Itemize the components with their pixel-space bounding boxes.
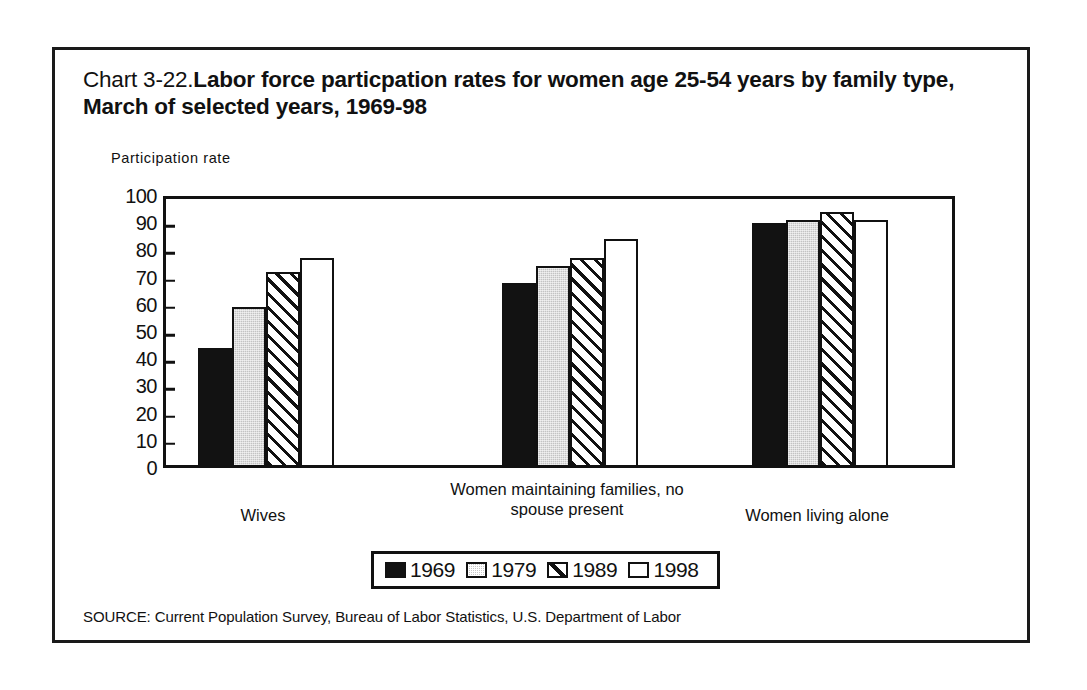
- x-axis-label: Women living alone: [692, 505, 942, 525]
- figure-frame: Chart 3-22.Labor force particpation rate…: [52, 47, 1030, 643]
- legend-item[interactable]: 1969: [385, 558, 462, 582]
- legend-label: 1969: [410, 558, 455, 582]
- source-note: SOURCE: Current Population Survey, Burea…: [83, 608, 681, 625]
- y-tick-label: 90: [113, 212, 157, 235]
- y-tick-label: 60: [113, 293, 157, 316]
- legend-item[interactable]: 1989: [547, 558, 624, 582]
- legend-label: 1989: [572, 558, 617, 582]
- y-tick-label: 20: [113, 402, 157, 425]
- legend-item[interactable]: 1979: [466, 558, 543, 582]
- legend: 1969197919891998: [371, 551, 720, 589]
- bar-group: [198, 199, 334, 465]
- bar[interactable]: [604, 239, 638, 465]
- legend-swatch-icon: [385, 562, 406, 578]
- y-tick-label: 0: [113, 457, 157, 480]
- legend-item[interactable]: 1998: [628, 558, 705, 582]
- bar[interactable]: [232, 307, 266, 465]
- chart-title-text: Labor force particpation rates for women…: [83, 67, 954, 119]
- page-title: Chart 3-22.Labor force particpation rate…: [83, 66, 1003, 120]
- y-tick-label: 100: [113, 185, 157, 208]
- y-tick-label: 80: [113, 239, 157, 262]
- y-tick-mark: [166, 443, 175, 446]
- bar[interactable]: [300, 258, 334, 465]
- y-tick-mark: [166, 225, 175, 228]
- bar[interactable]: [820, 212, 854, 465]
- bar[interactable]: [502, 283, 536, 465]
- y-tick-label: 50: [113, 321, 157, 344]
- y-tick-mark: [166, 361, 175, 364]
- bars-layer: [166, 199, 952, 465]
- y-tick-mark: [166, 334, 175, 337]
- x-axis-label: Women maintaining families, no spouse pr…: [442, 479, 692, 519]
- bar[interactable]: [570, 258, 604, 465]
- legend-swatch-icon: [628, 562, 649, 578]
- bar[interactable]: [198, 348, 232, 465]
- y-axis-title: Participation rate: [111, 150, 231, 166]
- legend-label: 1979: [491, 558, 536, 582]
- bar[interactable]: [854, 220, 888, 465]
- y-tick-mark: [166, 279, 175, 282]
- plot-area: [163, 196, 955, 468]
- bar[interactable]: [786, 220, 820, 465]
- y-tick-label: 30: [113, 375, 157, 398]
- bar[interactable]: [536, 266, 570, 465]
- bar[interactable]: [752, 223, 786, 465]
- y-tick-mark: [166, 252, 175, 255]
- bar-group: [752, 199, 888, 465]
- y-axis-ticks: 0102030405060708090100: [105, 196, 157, 468]
- y-tick-mark: [166, 388, 175, 391]
- legend-label: 1998: [653, 558, 698, 582]
- y-tick-label: 10: [113, 429, 157, 452]
- legend-swatch-icon: [547, 562, 568, 578]
- y-tick-label: 40: [113, 348, 157, 371]
- bar-group: [502, 199, 638, 465]
- chart-number: Chart 3-22.: [83, 67, 193, 92]
- y-tick-mark: [166, 307, 175, 310]
- y-tick-mark: [166, 415, 175, 418]
- y-tick-label: 70: [113, 266, 157, 289]
- legend-swatch-icon: [466, 562, 487, 578]
- bar[interactable]: [266, 272, 300, 465]
- x-axis-label: Wives: [163, 505, 363, 525]
